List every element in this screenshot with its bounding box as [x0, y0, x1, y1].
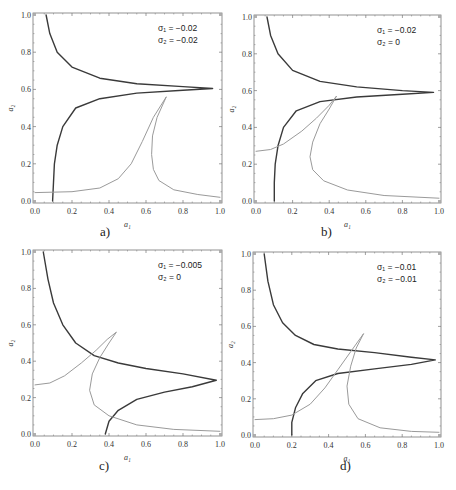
panel-a: 0.00.00.20.20.40.40.60.60.80.81.01.0a₁a₂… [0, 0, 228, 245]
x-tick-label: 1.0 [434, 207, 444, 216]
x-tick-label: 0.4 [104, 207, 114, 216]
plot-c: 0.00.00.20.20.40.40.60.60.80.81.01.0a₁a₂… [0, 245, 228, 490]
x-tick-label: 0.8 [397, 441, 407, 450]
y-tick-label: 0.6 [21, 85, 31, 94]
caption-b: b) [321, 224, 332, 240]
sigma1-annotation: σ₁ = −0.02 [158, 23, 198, 33]
y-tick-label: 0.8 [242, 50, 252, 59]
y-tick-label: 0.2 [21, 160, 31, 169]
x-tick-label: 0.0 [250, 441, 260, 450]
y-tick-label: 0.2 [21, 394, 31, 403]
dark-curve [267, 17, 434, 201]
x-tick-label: 0.0 [30, 207, 40, 216]
x-tick-label: 0.8 [397, 207, 407, 216]
y-tick-label: 0.4 [241, 359, 251, 368]
plot-a: 0.00.00.20.20.40.40.60.60.80.81.01.0a₁a₂… [0, 0, 228, 245]
y-tick-label: 1.0 [242, 13, 252, 22]
x-tick-label: 0.4 [324, 441, 334, 450]
sigma2-annotation: σ₂ = 0 [377, 37, 400, 47]
plot-b: 0.00.00.20.20.40.40.60.60.80.81.01.0a₁a₂… [228, 0, 456, 245]
dark-curve [43, 252, 216, 434]
x-tick-label: 0.2 [287, 441, 297, 450]
caption-d: d) [340, 458, 351, 474]
sigma1-annotation: σ₁ = −0.02 [377, 25, 417, 35]
x-tick-label: 0.8 [178, 207, 188, 216]
y-axis-label: a₂ [6, 339, 15, 346]
panel-b: 0.00.00.20.20.40.40.60.60.80.81.01.0a₁a₂… [228, 0, 456, 245]
y-tick-label: 0.6 [241, 322, 251, 331]
y-tick-label: 0.0 [21, 197, 31, 206]
plot-d: 0.00.00.20.20.40.40.60.60.80.81.01.0a₁a₂… [228, 245, 456, 490]
sigma2-annotation: σ₂ = −0.02 [158, 35, 198, 45]
x-tick-label: 1.0 [215, 207, 225, 216]
y-tick-label: 1.0 [241, 250, 251, 259]
light-curve [256, 96, 439, 198]
caption-c: c) [99, 458, 109, 474]
y-tick-label: 0.0 [241, 431, 251, 440]
y-tick-label: 0.0 [21, 430, 31, 439]
x-tick-label: 0.6 [141, 440, 151, 449]
y-tick-label: 0.2 [241, 395, 251, 404]
y-tick-label: 0.0 [242, 197, 252, 206]
light-curve [35, 97, 220, 198]
caption-a: a) [100, 224, 110, 240]
plot-frame [254, 15, 441, 203]
y-tick-label: 1.0 [21, 11, 31, 20]
y-tick-label: 0.2 [242, 160, 252, 169]
y-axis-label: a₂ [6, 104, 15, 111]
x-tick-label: 0.0 [251, 207, 261, 216]
sigma1-annotation: σ₁ = −0.005 [158, 260, 202, 270]
x-tick-label: 0.4 [324, 207, 334, 216]
sigma2-annotation: σ₂ = −0.01 [377, 274, 417, 284]
panel-c: 0.00.00.20.20.40.40.60.60.80.81.01.0a₁a₂… [0, 245, 228, 490]
y-tick-label: 0.6 [21, 321, 31, 330]
x-tick-label: 0.2 [67, 207, 77, 216]
x-axis-label: a₁ [344, 220, 351, 229]
x-tick-label: 0.0 [30, 440, 40, 449]
x-axis-label: a₁ [124, 220, 131, 229]
x-axis-label: a₁ [124, 453, 131, 462]
x-tick-label: 0.2 [288, 207, 298, 216]
y-tick-label: 0.4 [242, 123, 252, 132]
y-tick-label: 0.8 [241, 286, 251, 295]
x-tick-label: 1.0 [215, 440, 225, 449]
panel-d: 0.00.00.20.20.40.40.60.60.80.81.01.0a₁a₂… [228, 245, 456, 490]
y-axis-label: a₂ [228, 341, 235, 348]
x-tick-label: 0.6 [361, 207, 371, 216]
x-tick-label: 0.6 [360, 441, 370, 450]
y-tick-label: 0.4 [21, 357, 31, 366]
y-tick-label: 0.6 [242, 87, 252, 96]
plot-frame [33, 250, 222, 436]
y-tick-label: 0.8 [21, 48, 31, 57]
sigma2-annotation: σ₂ = 0 [158, 272, 181, 282]
x-tick-label: 1.0 [434, 441, 444, 450]
y-axis-label: a₂ [228, 105, 236, 112]
x-tick-label: 0.6 [141, 207, 151, 216]
x-tick-label: 0.8 [178, 440, 188, 449]
x-tick-label: 0.2 [67, 440, 77, 449]
y-tick-label: 0.8 [21, 284, 31, 293]
y-tick-label: 1.0 [21, 248, 31, 257]
y-tick-label: 0.4 [21, 123, 31, 132]
light-curve [35, 332, 220, 431]
x-tick-label: 0.4 [104, 440, 114, 449]
sigma1-annotation: σ₁ = −0.01 [377, 262, 417, 272]
light-curve [255, 334, 439, 433]
